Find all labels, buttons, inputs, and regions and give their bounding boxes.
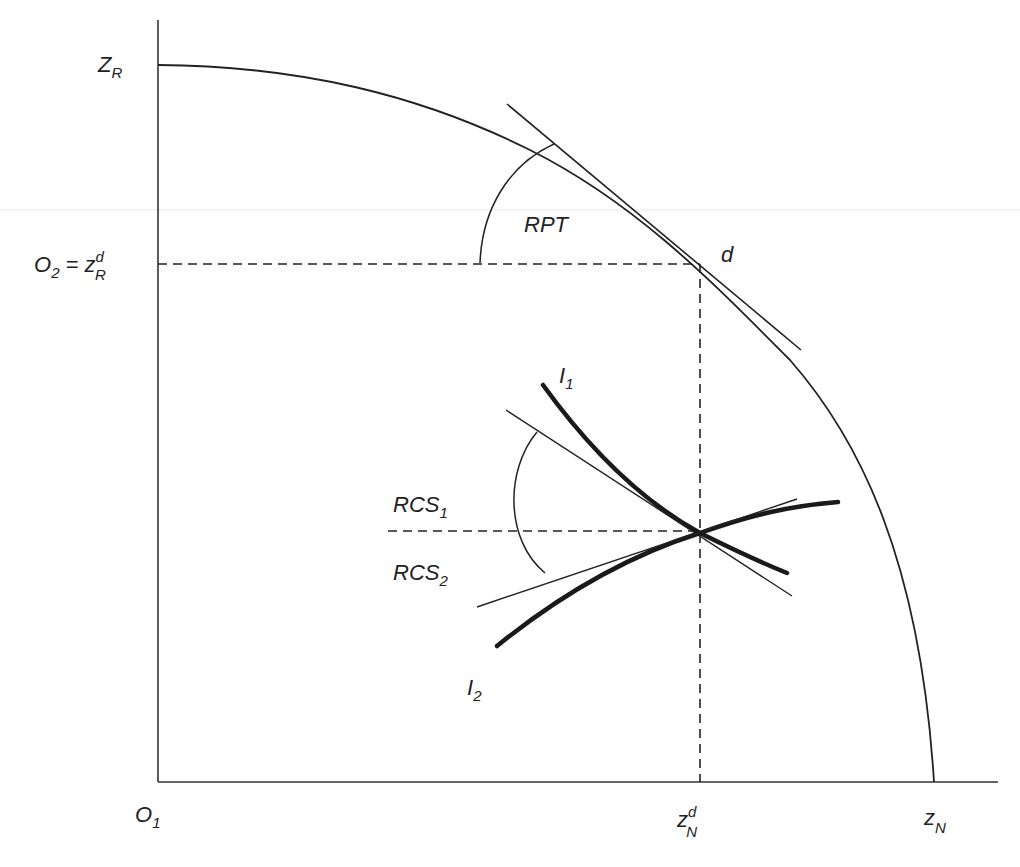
label-i1: I1 bbox=[559, 363, 573, 392]
rcs-angle-arc bbox=[514, 432, 545, 573]
rpt-angle-arc bbox=[480, 144, 554, 263]
label-i2: I2 bbox=[467, 675, 482, 704]
label-point-d: d bbox=[721, 242, 734, 267]
label-rcs2: RCS2 bbox=[393, 560, 448, 589]
tangent-i2 bbox=[477, 499, 797, 607]
tangent-i1 bbox=[506, 410, 792, 596]
label-o1: O1 bbox=[135, 802, 160, 831]
label-rcs1: RCS1 bbox=[393, 492, 448, 521]
ppf-curve bbox=[158, 65, 934, 782]
label-o2-eq-zdr: O2 = zdR bbox=[34, 248, 106, 283]
label-rpt: RPT bbox=[524, 212, 570, 237]
label-z-r: ZR bbox=[97, 52, 122, 81]
label-z-n: zN bbox=[923, 805, 946, 836]
label-z-d-n: zdN bbox=[676, 803, 697, 840]
diagram-canvas: ZR O2 = zdR RPT d I1 RCS1 RCS2 I2 O1 zdN… bbox=[0, 0, 1020, 867]
